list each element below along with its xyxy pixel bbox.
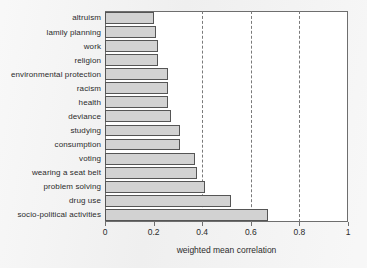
x-tick-mark	[299, 222, 300, 226]
bar-row	[105, 194, 348, 208]
category-label: deviance	[0, 112, 101, 121]
bar-racism	[105, 82, 168, 94]
bar-row	[105, 95, 348, 109]
category-label: consumption	[0, 140, 101, 149]
category-label: religion	[0, 56, 101, 65]
category-label: racism	[0, 84, 101, 93]
bar-environmental-protection	[105, 68, 168, 80]
bar-row	[105, 53, 348, 67]
category-axis-labels: altruismlamily planningworkreligionenvir…	[0, 11, 101, 222]
x-tick-label: 0.2	[148, 227, 160, 237]
x-tick-label: 0.6	[245, 227, 257, 237]
bar-row	[105, 208, 348, 222]
bar-consumption	[105, 139, 180, 151]
bar-row	[105, 67, 348, 81]
x-tick-label: 0	[103, 227, 108, 237]
bar-chart: altruismlamily planningworkreligionenvir…	[0, 0, 367, 268]
bar-altruism	[105, 12, 154, 24]
x-tick-mark	[251, 222, 252, 226]
x-tick-label: 0.4	[196, 227, 208, 237]
category-label: studying	[0, 126, 101, 135]
bar-row	[105, 11, 348, 25]
bar-row	[105, 138, 348, 152]
bar-lamily-planning	[105, 26, 156, 38]
bars-container	[105, 11, 348, 222]
bar-row	[105, 25, 348, 39]
bar-row	[105, 166, 348, 180]
bar-problem-solving	[105, 181, 205, 193]
bar-studying	[105, 125, 180, 137]
bar-row	[105, 152, 348, 166]
bar-deviance	[105, 110, 171, 122]
x-tick-label: 0.8	[293, 227, 305, 237]
bar-row	[105, 180, 348, 194]
x-tick-label: 1	[346, 227, 351, 237]
x-tick-mark	[154, 222, 155, 226]
category-label: problem solving	[0, 182, 101, 191]
category-label: altruism	[0, 13, 101, 22]
bar-row	[105, 109, 348, 123]
bar-row	[105, 81, 348, 95]
category-label: health	[0, 98, 101, 107]
bar-socio-political-activities	[105, 209, 268, 221]
category-label: drug use	[0, 196, 101, 205]
x-tick-mark	[105, 222, 106, 226]
bar-drug-use	[105, 195, 231, 207]
category-label: lamily planning	[0, 28, 101, 37]
bar-work	[105, 40, 158, 52]
x-tick-mark	[348, 222, 349, 226]
bar-row	[105, 124, 348, 138]
category-label: work	[0, 42, 101, 51]
category-label: voting	[0, 154, 101, 163]
bar-voting	[105, 153, 195, 165]
category-label: wearing a seat belt	[0, 168, 101, 177]
category-label: environmental protection	[0, 70, 101, 79]
category-label: socio-political activities	[0, 210, 101, 219]
bar-health	[105, 96, 168, 108]
x-axis-title: weighted mean correlation	[105, 245, 348, 255]
bar-religion	[105, 54, 158, 66]
bar-wearing-a-seat-belt	[105, 167, 197, 179]
x-tick-mark	[202, 222, 203, 226]
bar-row	[105, 39, 348, 53]
